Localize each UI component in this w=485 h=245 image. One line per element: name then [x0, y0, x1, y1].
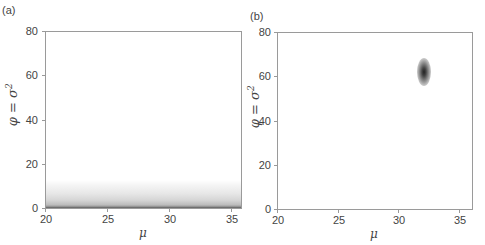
- panel-b-x-axis-label: μ: [370, 227, 378, 241]
- panel-a-xtick-label: 20: [40, 213, 52, 225]
- panel-a-ytick-20: [42, 164, 45, 165]
- panel-b-ytick-label: 80: [247, 26, 271, 38]
- panel-b-ytick-20: [274, 165, 277, 166]
- panel-b-ytick-80: [274, 32, 277, 33]
- panel-a-ytick-label: 60: [14, 69, 38, 81]
- panel-a-xtick-label: 30: [164, 213, 176, 225]
- panel-a-y-axis-label: φ = σ2: [4, 86, 20, 126]
- panel-b-xtick-20: [277, 210, 278, 213]
- panel-b-ytick-label: 0: [247, 203, 271, 215]
- panel-a-xtick-25: [107, 209, 108, 212]
- panel-a-x-axis-label: μ: [139, 226, 147, 240]
- panel-b-y-axis-label-sup: 2: [246, 85, 256, 91]
- panel-b-xtick-35: [459, 210, 460, 213]
- panel-a-xtick-label: 35: [226, 213, 238, 225]
- panel-b-ytick-40: [274, 121, 277, 122]
- panel-b-xtick-label: 35: [454, 214, 466, 226]
- panel-b-ytick-label: 20: [247, 159, 271, 171]
- panel-a-xtick-35: [231, 209, 232, 212]
- panel-a-ytick-60: [42, 75, 45, 76]
- panel-a-ytick-label: 0: [14, 202, 38, 214]
- panel-b-plot-area: [277, 32, 473, 210]
- panel-b-xtick-30: [398, 210, 399, 213]
- panel-b-ytick-60: [274, 76, 277, 77]
- panel-b-xtick-label: 30: [393, 214, 405, 226]
- panel-b-y-axis-label: φ = σ2: [246, 88, 262, 128]
- panel-b-xtick-label: 20: [272, 214, 284, 226]
- panel-a-density-band: [46, 180, 241, 208]
- panel-a-y-axis-label-text: φ = σ: [5, 89, 20, 126]
- panel-b-ytick-label: 60: [247, 70, 271, 82]
- panel-a-ytick-label: 80: [14, 25, 38, 37]
- panel-b-density-peak: [417, 58, 431, 86]
- panel-a-ytick-label: 20: [14, 158, 38, 170]
- panel-a-plot-area: [45, 31, 242, 209]
- panel-a-ytick-80: [42, 31, 45, 32]
- panel-b-xtick-label: 25: [333, 214, 345, 226]
- panel-b-xtick-25: [338, 210, 339, 213]
- panel-a-xtick-20: [45, 209, 46, 212]
- panel-a-xtick-label: 25: [102, 213, 114, 225]
- panel-a-xtick-30: [169, 209, 170, 212]
- panel-a-y-axis-label-sup: 2: [4, 83, 14, 89]
- panel-b-y-axis-label-text: φ = σ: [247, 91, 262, 128]
- panel-a-ytick-40: [42, 120, 45, 121]
- panel-b-label: (b): [250, 10, 263, 22]
- panel-a-label: (a): [2, 4, 15, 16]
